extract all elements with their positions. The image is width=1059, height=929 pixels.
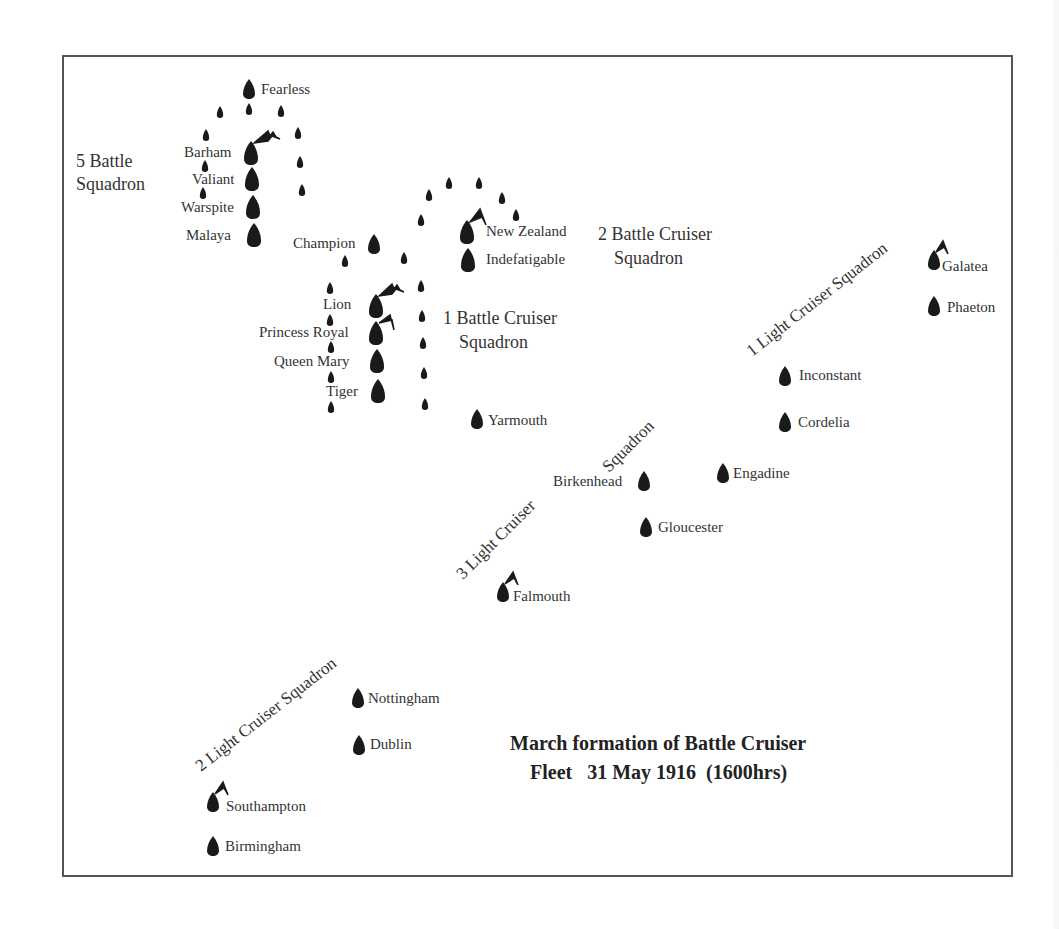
squadron-label-3lcs-2: Squadron: [598, 416, 658, 476]
ship-icon-new-zealand: [460, 220, 474, 244]
ship-icon-valiant: [245, 167, 259, 191]
destroyer-icon: [297, 156, 303, 168]
ship-icon-tiger: [371, 379, 385, 403]
ship-label-birkenhead: Birkenhead: [553, 473, 623, 489]
squadron-label-5bs-1: 5 Battle: [76, 151, 133, 171]
fleet-formation-diagram: 5 Battle Squadron Fearless Barham Valian…: [0, 0, 1059, 929]
destroyer-icon: [202, 160, 208, 172]
destroyer-icon: [328, 341, 334, 353]
destroyer-icon: [499, 192, 505, 204]
first-light-cruiser-squadron: 1 Light Cruiser Squadron Galatea Phaeton…: [743, 238, 996, 432]
destroyer-icon: [446, 177, 452, 189]
ship-icon-inconstant: [779, 366, 791, 386]
destroyer-icon: [203, 129, 209, 141]
ship-icon-fearless: [243, 79, 255, 99]
ship-icon-gloucester: [640, 517, 652, 537]
ship-label-nottingham: Nottingham: [368, 690, 440, 706]
ship-label-inconstant: Inconstant: [799, 367, 862, 383]
ship-label-queen-mary: Queen Mary: [274, 353, 350, 369]
ship-label-falmouth: Falmouth: [513, 588, 571, 604]
destroyer-icon: [513, 209, 519, 221]
ship-icon-falmouth: [497, 582, 509, 602]
destroyer-icon: [278, 105, 284, 117]
flag-icon-southampton: [215, 782, 228, 795]
squadron-label-1lcs: 1 Light Cruiser Squadron: [743, 238, 892, 360]
flag-icon-galatea: [936, 241, 948, 254]
ship-icon-birmingham: [207, 836, 219, 856]
destroyer-icon: [476, 177, 482, 189]
ship-icon-phaeton: [928, 296, 940, 316]
ship-label-yarmouth: Yarmouth: [488, 412, 548, 428]
destroyer-icon: [217, 106, 223, 118]
ship-label-warspite: Warspite: [181, 199, 234, 215]
destroyer-icon: [327, 314, 333, 326]
ship-label-cordelia: Cordelia: [798, 414, 850, 430]
ship-label-fearless: Fearless: [261, 81, 310, 97]
destroyer-icon: [419, 310, 425, 322]
ship-label-tiger: Tiger: [326, 383, 358, 399]
diagram-title-line-2: Fleet 31 May 1916 (1600hrs): [530, 761, 787, 784]
squadron-label-5bs-2: Squadron: [76, 174, 145, 194]
flag-icon-princess-royal: [379, 315, 394, 330]
ship-label-indefatigable: Indefatigable: [486, 251, 565, 267]
destroyer-icon: [299, 184, 305, 196]
destroyer-icon: [426, 189, 432, 201]
ship-icon-cordelia: [779, 412, 791, 432]
flag-icon-falmouth: [505, 572, 518, 585]
ship-icon-birkenhead: [638, 471, 650, 491]
ship-label-lion: Lion: [323, 296, 352, 312]
ship-label-barham: Barham: [184, 144, 232, 160]
squadron-label-1bcs-1: 1 Battle Cruiser: [443, 308, 557, 328]
destroyer-icon: [418, 280, 424, 292]
ship-icon-yarmouth: [471, 409, 483, 429]
destroyer-icon: [327, 282, 333, 294]
ship-icon-warspite: [246, 195, 260, 219]
second-battle-cruiser-squadron: New Zealand Indefatigable 2 Battle Cruis…: [418, 177, 712, 272]
flag-icon-lion: [379, 284, 404, 296]
ship-icon-dublin: [353, 735, 365, 755]
squadron-label-2bcs-1: 2 Battle Cruiser: [598, 224, 712, 244]
ship-icon-champion: [368, 234, 380, 254]
squadron-label-3lcs-1: 3 Light Cruiser: [452, 496, 539, 583]
flag-icon-barham: [254, 131, 280, 143]
ship-label-valiant: Valiant: [192, 171, 235, 187]
ship-label-princess-royal: Princess Royal: [259, 324, 349, 340]
ship-label-engadine: Engadine: [733, 465, 790, 481]
diagram-title-line-1: March formation of Battle Cruiser: [510, 732, 806, 754]
ship-label-birmingham: Birmingham: [225, 838, 301, 854]
ship-icon-lion: [369, 294, 383, 318]
ship-label-gloucester: Gloucester: [658, 519, 723, 535]
destroyer-icon: [421, 367, 427, 379]
ship-icon-galatea: [928, 250, 940, 270]
ship-icon-engadine: [717, 463, 729, 483]
ship-label-malaya: Malaya: [186, 227, 231, 243]
ship-label-galatea: Galatea: [942, 258, 988, 274]
flag-icon-new-zealand: [470, 209, 486, 225]
ship-label-phaeton: Phaeton: [947, 299, 996, 315]
squadron-label-1bcs-2: Squadron: [459, 332, 528, 352]
ship-label-new-zealand: New Zealand: [486, 223, 567, 239]
second-light-cruiser-squadron: 2 Light Cruiser Squadron Nottingham Dubl…: [192, 653, 440, 856]
destroyer-icon: [420, 337, 426, 349]
squadron-label-2lcs: 2 Light Cruiser Squadron: [192, 653, 341, 775]
destroyer-icon: [328, 401, 334, 413]
ship-icon-southampton: [207, 792, 219, 812]
ship-icon-princess-royal: [369, 321, 383, 345]
third-light-cruiser-squadron: 3 Light Cruiser Squadron Birkenhead Glou…: [452, 416, 723, 604]
squadron-label-2bcs-2: Squadron: [614, 248, 683, 268]
ship-icon-nottingham: [352, 688, 364, 708]
destroyer-icon: [295, 127, 301, 139]
ship-label-dublin: Dublin: [370, 736, 412, 752]
destroyer-icon: [342, 255, 348, 267]
destroyer-icon: [418, 214, 424, 226]
fifth-battle-squadron: 5 Battle Squadron Fearless Barham Valian…: [76, 79, 310, 247]
destroyer-icon: [401, 252, 407, 264]
ship-label-champion: Champion: [293, 235, 356, 251]
ship-icon-indefatigable: [461, 248, 475, 272]
destroyer-icon: [246, 103, 252, 115]
ship-icon-queen-mary: [370, 349, 384, 373]
ship-icon-malaya: [247, 223, 261, 247]
ship-label-southampton: Southampton: [226, 798, 307, 814]
ship-icon-barham: [244, 141, 258, 165]
destroyer-icon: [422, 398, 428, 410]
